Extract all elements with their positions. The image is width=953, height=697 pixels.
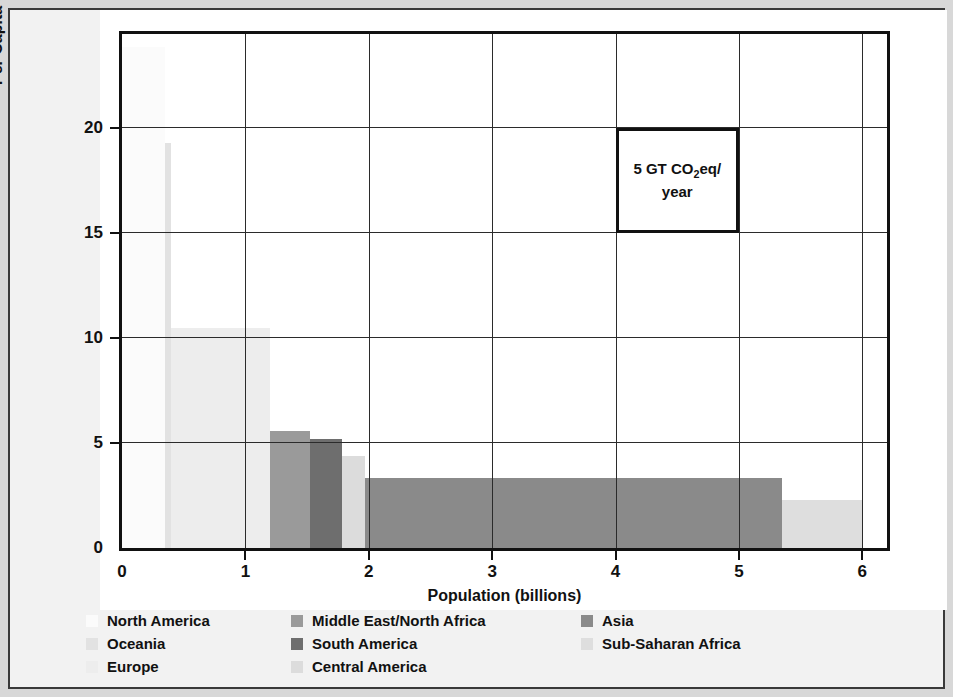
- legend-item-north-america[interactable]: North America: [86, 609, 210, 632]
- gridline-vertical: [492, 34, 493, 548]
- legend-swatch-icon: [86, 615, 98, 627]
- legend-swatch-icon: [291, 638, 303, 650]
- x-tick-label: 6: [842, 562, 882, 582]
- x-axis-label: Population (billions): [119, 587, 890, 605]
- gridline-horizontal: [122, 232, 887, 233]
- y-tick-mark: [110, 442, 119, 444]
- legend-swatch-icon: [86, 638, 98, 650]
- legend-item-europe[interactable]: Europe: [86, 655, 210, 678]
- y-tick-mark: [110, 337, 119, 339]
- annotation-text-line2: year: [662, 183, 693, 200]
- gridline-vertical: [739, 34, 740, 548]
- y-tick-label: 20: [57, 118, 103, 138]
- y-tick-mark: [110, 232, 119, 234]
- bar-central-america: [342, 456, 365, 548]
- gridline-horizontal: [122, 337, 887, 338]
- x-tick-label: 0: [102, 562, 142, 582]
- x-tick-mark: [861, 551, 863, 560]
- bar-middle-east-north-africa: [270, 431, 309, 548]
- chart-figure: Per Capita GHG Emissions (tons CO2eq/per…: [0, 0, 953, 697]
- y-tick-label: 0: [57, 538, 103, 558]
- annotation-text-post: eq/: [699, 160, 721, 177]
- bar-asia: [365, 478, 782, 548]
- gridline-vertical: [369, 34, 370, 548]
- legend-swatch-icon: [86, 661, 98, 673]
- bar-sub-saharan-africa: [782, 500, 862, 548]
- legend-item-label: Middle East/North Africa: [312, 612, 486, 629]
- x-tick-mark: [244, 551, 246, 560]
- legend-item-label: Sub-Saharan Africa: [602, 635, 741, 652]
- legend-item-label: South America: [312, 635, 417, 652]
- bar-europe: [171, 328, 270, 548]
- bar-south-america: [310, 439, 342, 548]
- annotation-text: 5 GT CO2eq/year: [633, 159, 721, 202]
- plot-canvas: 5 GT CO2eq/year: [122, 34, 887, 548]
- legend-item-label: North America: [107, 612, 210, 629]
- x-tick-label: 4: [596, 562, 636, 582]
- reference-area-box: 5 GT CO2eq/year: [616, 128, 739, 233]
- legend-item-label: Oceania: [107, 635, 165, 652]
- legend-swatch-icon: [291, 615, 303, 627]
- legend-item-south-america[interactable]: South America: [291, 632, 486, 655]
- legend-swatch-icon: [581, 615, 593, 627]
- x-tick-mark: [368, 551, 370, 560]
- y-tick-label: 5: [57, 433, 103, 453]
- y-tick-label: 15: [57, 223, 103, 243]
- legend-item-oceania[interactable]: Oceania: [86, 632, 210, 655]
- y-tick-label: 10: [57, 328, 103, 348]
- gridline-vertical: [245, 34, 246, 548]
- bar-north-america: [122, 47, 165, 548]
- gridline-vertical: [862, 34, 863, 548]
- x-tick-mark: [738, 551, 740, 560]
- legend-swatch-icon: [291, 661, 303, 673]
- annotation-text-pre: 5 GT CO: [633, 160, 693, 177]
- legend-item-asia[interactable]: Asia: [581, 609, 741, 632]
- x-tick-mark: [615, 551, 617, 560]
- legend-item-middle-east-north-africa[interactable]: Middle East/North Africa: [291, 609, 486, 632]
- legend-swatch-icon: [581, 638, 593, 650]
- x-tick-label: 3: [472, 562, 512, 582]
- legend-item-sub-saharan-africa[interactable]: Sub-Saharan Africa: [581, 632, 741, 655]
- gridline-horizontal: [122, 442, 887, 443]
- y-tick-mark: [110, 127, 119, 129]
- legend-item-label: Asia: [602, 612, 634, 629]
- x-tick-label: 5: [719, 562, 759, 582]
- y-axis-label-pre: Per Capita GHG Emissions (tons CO: [0, 0, 5, 85]
- y-axis-label: Per Capita GHG Emissions (tons CO2eq/per…: [0, 0, 8, 85]
- legend-item-label: Europe: [107, 658, 159, 675]
- x-tick-mark: [491, 551, 493, 560]
- legend-column: Middle East/North AfricaSouth AmericaCen…: [291, 609, 486, 678]
- legend-item-label: Central America: [312, 658, 427, 675]
- gridline-horizontal: [122, 127, 887, 128]
- plot-area: 5 GT CO2eq/year: [119, 31, 890, 551]
- chart-legend: North AmericaOceaniaEuropeMiddle East/No…: [86, 609, 886, 679]
- x-tick-label: 1: [225, 562, 265, 582]
- legend-column: AsiaSub-Saharan Africa: [581, 609, 741, 655]
- gridline-vertical: [616, 34, 617, 548]
- legend-item-central-america[interactable]: Central America: [291, 655, 486, 678]
- legend-column: North AmericaOceaniaEurope: [86, 609, 210, 678]
- x-tick-label: 2: [349, 562, 389, 582]
- screenshot-page: Per Capita GHG Emissions (tons CO2eq/per…: [0, 0, 953, 697]
